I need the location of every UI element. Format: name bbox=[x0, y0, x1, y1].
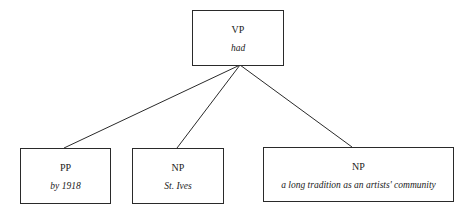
node-vp-root: VP had bbox=[192, 10, 284, 66]
node-category: NP bbox=[133, 162, 223, 174]
node-word: St. Ives bbox=[133, 180, 223, 192]
node-pp: PP by 1918 bbox=[20, 148, 111, 204]
edge-vp-np-long-tradition bbox=[240, 65, 352, 147]
node-np-long-tradition: NP a long tradition as an artists' commu… bbox=[263, 147, 454, 202]
node-word: had bbox=[193, 42, 283, 54]
node-word: by 1918 bbox=[21, 180, 110, 192]
node-category: NP bbox=[264, 161, 453, 173]
node-word: a long tradition as an artists' communit… bbox=[264, 179, 453, 191]
parse-tree-diagram: VP had PP by 1918 NP St. Ives NP a long … bbox=[0, 0, 474, 217]
node-np-st-ives: NP St. Ives bbox=[132, 148, 224, 204]
edge-vp-pp bbox=[64, 65, 240, 148]
node-category: PP bbox=[21, 162, 110, 174]
node-category: VP bbox=[193, 24, 283, 36]
edge-vp-np-st-ives bbox=[177, 65, 240, 148]
